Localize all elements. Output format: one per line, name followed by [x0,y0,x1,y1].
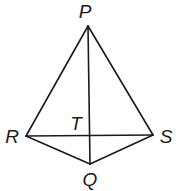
segment-pq [88,26,90,164]
label-p: P [79,1,92,22]
label-q: Q [83,169,98,190]
segment-rs [26,135,153,136]
segment-rq [26,136,90,164]
segment-ps [88,26,153,135]
segment-sq [90,135,153,164]
label-s: S [160,126,173,147]
segments [26,26,153,164]
geometry-diagram: P R S Q T [0,0,187,191]
label-r: R [5,126,19,147]
label-t: T [70,113,83,134]
